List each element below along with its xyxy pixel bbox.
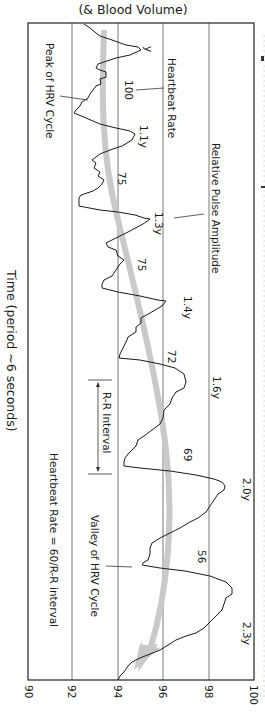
- heart-rate-100: 100: [123, 80, 135, 100]
- time-axis-title: Time (period ~6 seconds): [4, 269, 19, 432]
- tick-100: 100: [248, 685, 260, 705]
- peak-of-hrv-label: Peak of HRV Cycle: [44, 43, 56, 139]
- relative-pulse-amplitude-label: Relative Pulse Amplitude: [210, 143, 222, 273]
- tick-94: 94: [112, 685, 124, 699]
- heart-rate-69: 69: [182, 448, 194, 461]
- peak-hrv-leader: [60, 96, 88, 100]
- heartbeat-rate-leader: [136, 88, 164, 90]
- amplitude-ticks: 90 92 94 96 98 100: [23, 685, 260, 705]
- peak-label-y: y: [143, 46, 155, 52]
- plot-frame: [28, 23, 254, 680]
- peak-label-1-6y: 1.6y: [211, 376, 223, 399]
- valley-hrv-leader: [106, 566, 132, 567]
- heart-rate-72: 72: [166, 350, 178, 363]
- tick-98: 98: [203, 685, 215, 698]
- rr-arrow-head-down: [96, 467, 100, 472]
- heart-rate-56: 56: [196, 550, 208, 564]
- formula-label: Heartbeat Rate = 60/R-R interval: [48, 453, 60, 627]
- chart-title: (& Blood Volume): [78, 2, 187, 17]
- rr-interval-label: R-R Interval: [101, 392, 113, 454]
- heart-rate-labels: 100 75 75 72 69 56: [116, 80, 208, 564]
- peak-label-2-3y: 2.3y: [241, 622, 253, 645]
- cropped-title-fragments: [261, 35, 265, 700]
- annotations: Heartbeat Rate Relative Pulse Amplitude …: [44, 43, 222, 627]
- pulse-amplitude-leader: [174, 214, 204, 218]
- pulse-peak-labels: y 1.1y 1.3y 1.4y 1.6y 2.0y 2.3y: [138, 46, 253, 645]
- tick-92: 92: [66, 685, 78, 698]
- tick-90: 90: [23, 685, 35, 698]
- tick-96: 96: [157, 685, 169, 699]
- ppg-chart: (& Blood Volume) y 1.1y 1.3y 1.4y 1.6y 2…: [0, 0, 265, 718]
- peak-label-1-4y: 1.4y: [182, 296, 194, 319]
- heart-rate-75a: 75: [116, 172, 128, 185]
- rr-arrow-head-up: [96, 382, 100, 387]
- trend-arrow: [103, 30, 170, 672]
- peak-label-1-1y: 1.1y: [138, 125, 150, 148]
- valley-of-hrv-label: Valley of HRV Cycle: [89, 515, 101, 617]
- heartbeat-rate-label: Heartbeat Rate: [166, 58, 178, 138]
- peak-label-1-3y: 1.3y: [153, 212, 165, 235]
- peak-label-2-0y: 2.0y: [241, 478, 253, 501]
- heart-rate-75b: 75: [136, 258, 148, 271]
